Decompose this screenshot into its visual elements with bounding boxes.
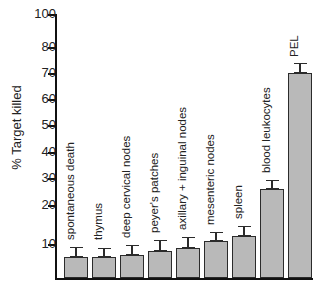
y-tick-label-70: 70 bbox=[10, 66, 56, 79]
bar bbox=[92, 257, 116, 278]
bar-group-thymus: thymus bbox=[89, 14, 119, 278]
bar-label: thymus bbox=[92, 203, 104, 240]
error-bar-cap-upper bbox=[154, 240, 167, 242]
bar-label: PEL bbox=[288, 35, 300, 57]
error-bar-cap-lower bbox=[238, 235, 251, 237]
y-tick-label-100: 100 bbox=[10, 7, 56, 20]
error-bar-cap-upper bbox=[294, 63, 307, 65]
bar bbox=[64, 257, 88, 278]
bar-group-peyers-patches: peyer's patches bbox=[145, 14, 175, 278]
bar bbox=[260, 189, 284, 278]
y-tick-label-40: 40 bbox=[10, 145, 56, 158]
bar-label: blood leukocytes bbox=[260, 87, 272, 173]
y-tick-label-30: 30 bbox=[10, 171, 56, 184]
bar-group-spleen: spleen bbox=[229, 14, 259, 278]
y-tick-label-20: 20 bbox=[10, 198, 56, 211]
error-bar-cap-lower bbox=[98, 256, 111, 258]
bar bbox=[120, 255, 144, 278]
bar-label: peyer's patches bbox=[148, 153, 160, 233]
error-bar-cap-upper bbox=[126, 245, 139, 247]
bar-group-spontaneous-death: spontaneous death bbox=[61, 14, 91, 278]
bar-group-axillary-inguinal-nodes: axillary + inguinal nodes bbox=[173, 14, 203, 278]
plot-area: spontaneous death thymus deep cervical n… bbox=[57, 14, 313, 278]
error-bar-cap-lower bbox=[182, 247, 195, 249]
y-tick-label-80: 80 bbox=[10, 40, 56, 53]
bar-label: axillary + inguinal nodes bbox=[176, 107, 188, 230]
error-bar-cap-upper bbox=[70, 247, 83, 249]
error-bar-cap-lower bbox=[210, 240, 223, 242]
bar-label: deep cervical nodes bbox=[120, 136, 132, 238]
x-axis-line bbox=[55, 278, 313, 280]
error-bar-cap-lower bbox=[154, 250, 167, 252]
bar bbox=[176, 248, 200, 278]
bar-label: spontaneous death bbox=[64, 142, 76, 240]
bar-label: mesenteric nodes bbox=[204, 134, 216, 225]
bar-group-deep-cervical-nodes: deep cervical nodes bbox=[117, 14, 147, 278]
error-bar-cap-lower bbox=[266, 188, 279, 190]
error-bar-cap-lower bbox=[70, 256, 83, 258]
error-bar-cap-upper bbox=[182, 237, 195, 239]
y-tick-label-10: 10 bbox=[10, 237, 56, 250]
bar bbox=[148, 251, 172, 278]
bar-group-pel: PEL bbox=[285, 14, 315, 278]
y-tick-label-60: 60 bbox=[10, 92, 56, 105]
error-bar-cap-lower bbox=[126, 254, 139, 256]
bar-group-blood-leukocytes: blood leukocytes bbox=[257, 14, 287, 278]
error-bar-cap-upper bbox=[266, 180, 279, 182]
y-axis-ticks: 100 80 70 60 50 40 30 20 10 bbox=[0, 0, 56, 297]
error-bar-cap-lower bbox=[294, 72, 307, 74]
bar bbox=[288, 73, 312, 278]
bar-group-mesenteric-nodes: mesenteric nodes bbox=[201, 14, 231, 278]
y-tick-label-50: 50 bbox=[10, 118, 56, 131]
error-bar-cap-upper bbox=[238, 226, 251, 228]
error-bar-cap-upper bbox=[98, 248, 111, 250]
bar bbox=[232, 236, 256, 278]
bar-label: spleen bbox=[232, 185, 244, 219]
error-bar-cap-upper bbox=[210, 232, 223, 234]
bar bbox=[204, 241, 228, 278]
bar-chart-figure: % Target killed 100 80 70 60 50 40 30 20… bbox=[0, 0, 323, 297]
